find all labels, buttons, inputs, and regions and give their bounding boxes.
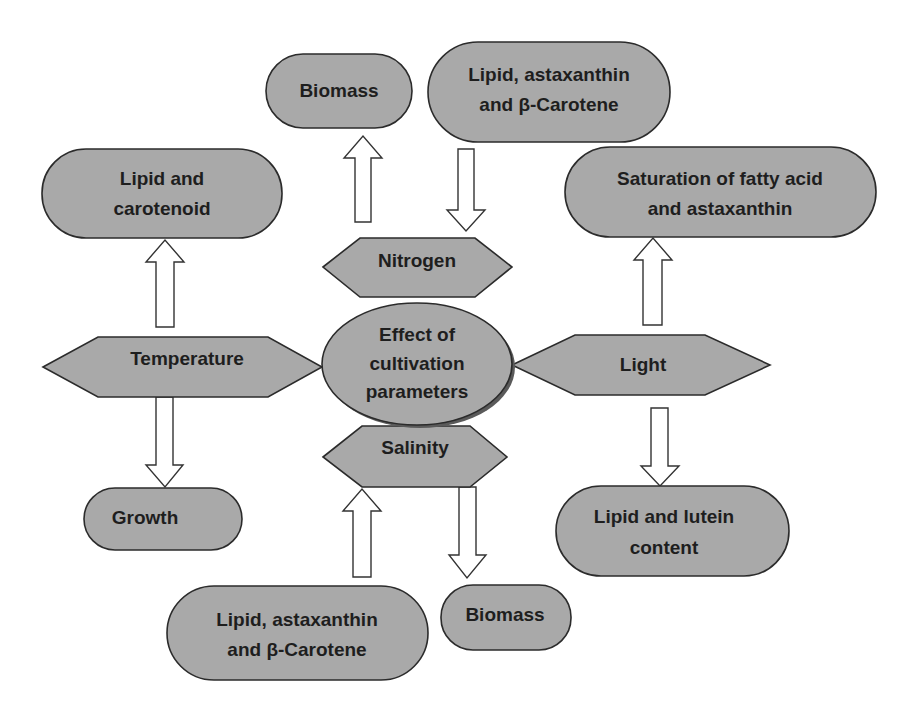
node-nitrogen-down-lipid-astaxanthin: Lipid, astaxanthin and β-Carotene (428, 42, 670, 142)
center-label-line-1: Effect of (379, 324, 456, 345)
node-salinity-down-biomass: Biomass (441, 585, 571, 650)
node-label: Biomass (465, 604, 544, 625)
arrow-down-icon-salinity-biomass (449, 487, 486, 578)
node-label: Growth (112, 507, 179, 528)
node-label-line-2: content (630, 537, 699, 558)
node-temperature-up-lipid-carotenoid: Lipid and carotenoid (42, 149, 282, 238)
cultivation-parameters-diagram: Biomass Lipid, astaxanthin and β-Caroten… (0, 0, 918, 714)
center-label-line-2: cultivation (369, 353, 464, 374)
node-light-down-lipid-lutein: Lipid and lutein content (556, 486, 789, 576)
node-light-up-saturation: Saturation of fatty acid and astaxanthin (565, 147, 876, 237)
node-label-line-1: Saturation of fatty acid (617, 168, 823, 189)
parameter-salinity: Salinity (323, 426, 507, 487)
arrow-up-icon-temperature-carotenoid (146, 240, 184, 327)
node-label-line-2: carotenoid (113, 198, 210, 219)
node-temperature-down-growth: Growth (84, 488, 242, 550)
parameter-label: Salinity (381, 437, 449, 458)
node-salinity-up-lipid-astaxanthin: Lipid, astaxanthin and β-Carotene (167, 586, 428, 680)
node-label-line-1: Lipid and (120, 168, 204, 189)
center-label-line-3: parameters (366, 381, 468, 402)
arrow-down-icon-light-lutein (641, 408, 679, 486)
arrow-up-icon-light-saturation (634, 238, 672, 325)
parameter-light: Light (512, 335, 770, 395)
parameter-label: Light (620, 354, 667, 375)
node-label-line-1: Lipid, astaxanthin (468, 64, 630, 85)
parameter-label: Temperature (130, 348, 244, 369)
node-label: Biomass (299, 80, 378, 101)
center-node-effect-of-cultivation-parameters: Effect of cultivation parameters (322, 303, 515, 428)
node-label-line-2: and β-Carotene (227, 639, 366, 660)
node-label-line-1: Lipid, astaxanthin (216, 609, 378, 630)
parameter-label: Nitrogen (378, 250, 456, 271)
parameter-nitrogen: Nitrogen (323, 238, 512, 297)
arrow-down-icon-temperature-growth (146, 397, 183, 487)
arrow-up-icon-lipid-to-salinity (343, 489, 381, 577)
node-label-line-2: and astaxanthin (648, 198, 793, 219)
node-label-line-1: Lipid and lutein (594, 506, 734, 527)
node-label-line-2: and β-Carotene (479, 94, 618, 115)
parameter-temperature: Temperature (43, 337, 322, 397)
arrow-up-icon-nitrogen-biomass (344, 136, 382, 222)
arrow-down-icon-lipid-to-nitrogen (447, 149, 485, 231)
node-nitrogen-up-biomass: Biomass (266, 54, 412, 128)
